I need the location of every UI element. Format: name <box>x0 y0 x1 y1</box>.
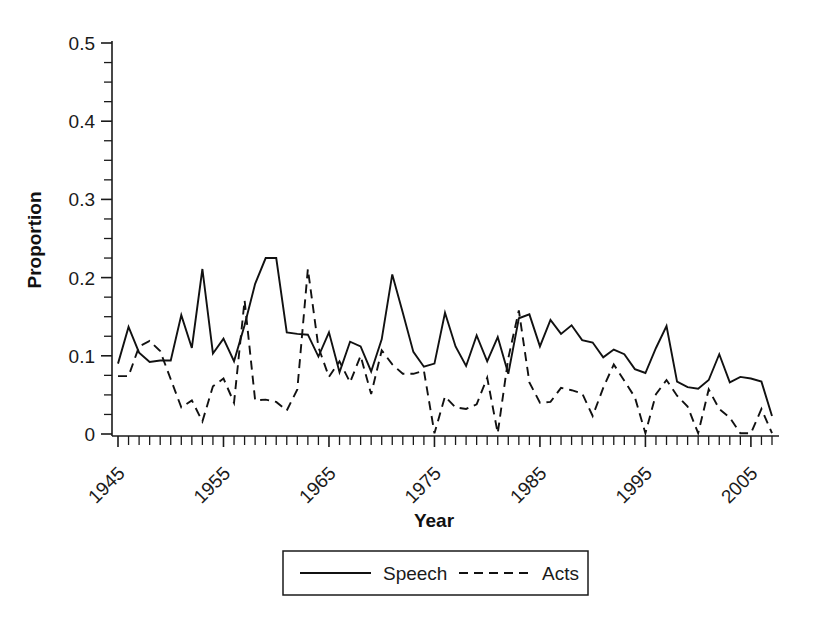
x-axis: 1945195519651975198519952005 Year <box>84 436 779 531</box>
y-axis-title: Proportion <box>24 191 45 288</box>
chart-legend: Speech Acts <box>283 551 588 595</box>
x-tick-label: 2005 <box>717 463 762 508</box>
y-axis: 00.10.20.30.40.5 Proportion <box>24 33 112 445</box>
x-tick-label: 1975 <box>400 463 445 508</box>
y-axis-ticks <box>101 43 112 434</box>
y-tick-label: 0 <box>84 424 95 445</box>
y-axis-tick-labels: 00.10.20.30.40.5 <box>69 33 96 445</box>
x-axis-ticks <box>118 436 772 447</box>
x-tick-label: 1955 <box>189 463 234 508</box>
series-line-acts <box>118 269 772 433</box>
x-tick-label: 1995 <box>611 463 656 508</box>
y-tick-label: 0.1 <box>69 346 95 367</box>
y-tick-label: 0.4 <box>69 111 96 132</box>
x-tick-label: 1945 <box>84 463 129 508</box>
x-axis-title: Year <box>414 510 455 531</box>
plot-area <box>118 258 772 433</box>
x-tick-label: 1965 <box>295 463 340 508</box>
y-tick-label: 0.3 <box>69 189 95 210</box>
x-tick-label: 1985 <box>506 463 551 508</box>
x-axis-tick-labels: 1945195519651975198519952005 <box>84 463 762 508</box>
legend-label-speech: Speech <box>383 563 447 584</box>
chart-figure: 00.10.20.30.40.5 Proportion 194519551965… <box>0 0 819 619</box>
y-tick-label: 0.2 <box>69 268 95 289</box>
legend-label-acts: Acts <box>542 563 579 584</box>
proportion-by-year-line-chart: 00.10.20.30.40.5 Proportion 194519551965… <box>0 0 819 619</box>
y-tick-label: 0.5 <box>69 33 95 54</box>
